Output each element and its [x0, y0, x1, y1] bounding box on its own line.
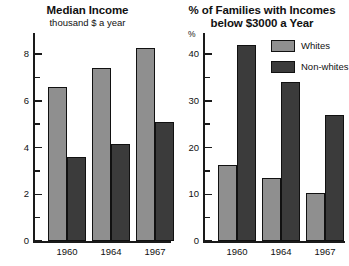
x-tick-label-1960: 1960 [49, 247, 85, 257]
y-tick-major [205, 147, 212, 149]
legend-item-whites: Whites [271, 38, 349, 59]
y-tick-minor [35, 170, 40, 172]
y-tick-minor [205, 217, 210, 219]
bar-whites-1960 [218, 165, 237, 241]
x-axis-line [203, 241, 345, 243]
y-tick-minor [205, 77, 210, 79]
x-axis-line [33, 241, 171, 243]
y-tick-label: 40 [177, 49, 199, 58]
left-chart-title: Median Income [0, 4, 175, 17]
y-tick-minor [205, 170, 210, 172]
bar-whites-1967 [306, 193, 325, 241]
y-tick-label: 2 [7, 189, 29, 198]
y-tick-label: 10 [177, 189, 199, 198]
chart-panel-median-income: Median Income thousand $ a year 02468196… [0, 0, 175, 266]
y-axis-line [33, 33, 35, 243]
bar-non-whites-1960 [237, 45, 256, 241]
x-tick-label-1964: 1964 [93, 247, 129, 257]
right-chart-title-block: % of Families with Incomes below $3000 a… [175, 4, 349, 30]
x-tick-label-1960: 1960 [219, 247, 255, 257]
y-tick-label: 6 [7, 96, 29, 105]
right-chart-subtitle: below $3000 a Year [175, 17, 349, 30]
y-tick-label: 4 [7, 143, 29, 152]
bar-non-whites-1964 [111, 144, 130, 241]
bar-whites-1964 [262, 178, 281, 241]
bar-whites-1964 [92, 68, 111, 241]
y-tick-major [205, 53, 212, 55]
bar-whites-1967 [136, 48, 155, 241]
y-tick-major [35, 147, 42, 149]
y-tick-minor [35, 123, 40, 125]
bar-whites-1960 [48, 87, 67, 241]
y-tick-minor [205, 123, 210, 125]
legend-label-whites: Whites [301, 40, 330, 52]
y-tick-major [35, 100, 42, 102]
y-axis-line [203, 33, 205, 243]
bar-non-whites-1964 [281, 82, 300, 241]
legend-label-nonwhites: Non-whites [301, 61, 349, 73]
legend: Whites Non-whites [271, 38, 349, 80]
y-tick-label: 30 [177, 96, 199, 105]
x-tick-label-1967: 1967 [137, 247, 173, 257]
y-tick-major [35, 194, 42, 196]
y-tick-label: 20 [177, 143, 199, 152]
y-tick-major [35, 240, 42, 242]
y-tick-major [205, 240, 212, 242]
legend-item-nonwhites: Non-whites [271, 59, 349, 80]
y-tick-major [205, 194, 212, 196]
y-tick-major [205, 100, 212, 102]
x-tick-label-1967: 1967 [307, 247, 343, 257]
figure: Median Income thousand $ a year 02468196… [0, 0, 349, 266]
y-tick-label: 8 [7, 49, 29, 58]
left-chart-subtitle: thousand $ a year [0, 17, 175, 29]
right-chart-title: % of Families with Incomes [175, 4, 349, 17]
y-tick-label: 0 [7, 236, 29, 245]
bar-non-whites-1967 [155, 122, 174, 241]
y-tick-minor [35, 217, 40, 219]
y-tick-label: 0 [177, 236, 199, 245]
left-chart-title-block: Median Income thousand $ a year [0, 4, 175, 29]
bar-non-whites-1967 [325, 115, 344, 241]
y-tick-minor [35, 77, 40, 79]
y-tick-major [35, 53, 42, 55]
legend-swatch-whites [271, 40, 295, 52]
x-tick-label-1964: 1964 [263, 247, 299, 257]
bar-non-whites-1960 [67, 157, 86, 241]
legend-swatch-nonwhites [271, 61, 295, 73]
y-axis-unit-label: % [188, 30, 196, 39]
